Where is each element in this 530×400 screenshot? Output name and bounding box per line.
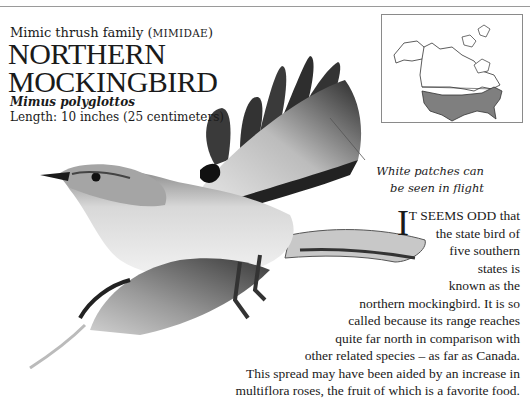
wing-caption: White patches can be seen in flight <box>372 163 484 197</box>
title-line-1: NORTHERN <box>8 40 218 68</box>
body-line: states is <box>220 260 520 278</box>
range-map <box>381 14 523 123</box>
page-title: NORTHERN MOCKINGBIRD <box>8 40 218 96</box>
body-line: This spread may have been aided by an in… <box>220 365 520 383</box>
caption-line-1: White patches can <box>372 163 484 180</box>
body-line: multiflora roses, the fruit of which is … <box>220 382 520 400</box>
title-line-2: MOCKINGBIRD <box>8 68 218 96</box>
body-line: the state bird of <box>220 225 520 243</box>
length-label: Length: 10 inches (25 centimeters) <box>10 110 224 124</box>
body-line: five southern <box>220 242 520 260</box>
body-line: other related species – as far as Canada… <box>220 347 520 365</box>
body-line: T SEEMS ODD that <box>220 207 520 225</box>
caption-line-2: be seen in flight <box>372 180 484 197</box>
family-suffix: ) <box>208 25 213 40</box>
north-america-map-icon <box>382 15 522 122</box>
scientific-name: Mimus polyglottos <box>10 95 135 109</box>
body-line: called because its range reaches <box>220 312 520 330</box>
body-line: known as the <box>220 277 520 295</box>
body-paragraph: T SEEMS ODD that the state bird of five … <box>220 207 520 400</box>
body-line: northern mockingbird. It is so <box>220 295 520 313</box>
body-line: quite far north in comparison with <box>220 330 520 348</box>
